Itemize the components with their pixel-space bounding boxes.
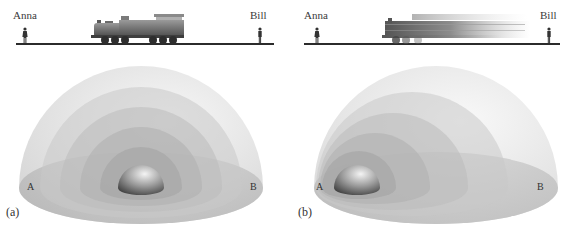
observer-label-anna: Anna — [13, 9, 37, 21]
observer-label-bill: Bill — [250, 9, 267, 21]
point-a-label: A — [316, 181, 323, 192]
bill-figure-icon — [546, 27, 552, 43]
point-a-label: A — [27, 181, 34, 192]
point-b-label: B — [250, 181, 257, 192]
panel-a-caption: (a) — [6, 205, 19, 220]
bill-figure-icon — [257, 27, 263, 43]
panel-a: Anna Bill — [0, 0, 284, 242]
panel-b-caption: (b) — [298, 205, 312, 220]
observer-label-bill: Bill — [540, 9, 557, 21]
observer-label-anna: Anna — [304, 9, 328, 21]
wavefront-domes-concentric — [0, 55, 284, 230]
locomotive-icon — [91, 12, 187, 44]
anna-figure-icon — [314, 27, 320, 43]
moving-locomotive-icon — [382, 12, 532, 44]
point-b-label: B — [537, 181, 544, 192]
panel-b: Anna Bill — [290, 0, 569, 242]
anna-figure-icon — [22, 27, 28, 43]
wavefront-domes-shifted — [290, 55, 569, 230]
